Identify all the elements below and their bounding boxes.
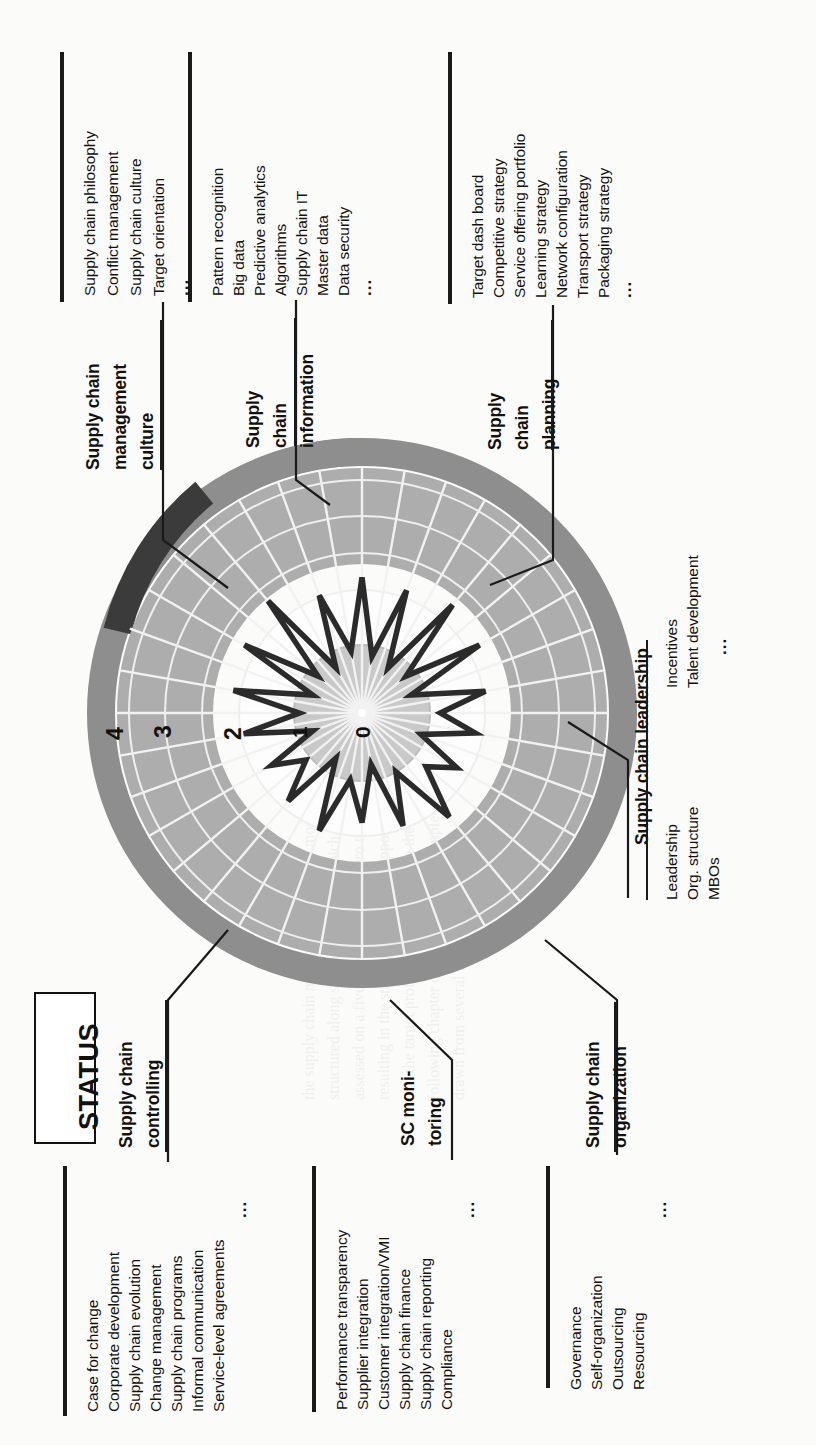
radial-tick-3: 3 [152, 725, 175, 738]
item-information-1: Big data [231, 240, 247, 296]
item-controlling-6: Service-level agreements [211, 1240, 227, 1412]
item-organization-ellipsis: ... [652, 1201, 669, 1218]
item-leadership-3: Incentives [664, 619, 680, 688]
item-information-2: Predictive analytics [252, 165, 268, 296]
item-leadership-4: Talent development [685, 555, 701, 688]
item-information-0: Pattern recognition [210, 168, 226, 296]
heading-monitoring-l1: SC moni- [400, 1071, 418, 1146]
heading-rule-culture [160, 320, 162, 470]
radial-tick-4: 4 [104, 727, 127, 740]
heading-controlling-l2: controlling [145, 1060, 163, 1148]
item-planning-0: Target dash board [470, 175, 486, 298]
group-underline-planning [448, 52, 452, 304]
heading-organization-l1: Supply chain [585, 1041, 603, 1148]
item-information-4: Supply chain IT [294, 191, 310, 296]
radial-tick-2: 2 [222, 727, 245, 740]
item-information-3: Algorithms [273, 224, 289, 296]
item-monitoring-1: Supplier integration [355, 1278, 371, 1410]
radar-svg [82, 418, 642, 1008]
group-underline-organization [546, 1166, 550, 1388]
item-controlling-ellipsis: ... [232, 1201, 249, 1218]
heading-planning-l2: chain [514, 405, 532, 450]
heading-leadership: Supply chain leadership [634, 648, 652, 845]
heading-culture-l2: management [112, 364, 130, 470]
maturity-radar-chart: 0 1 2 3 4 [82, 418, 642, 1008]
heading-culture-l3: culture [139, 413, 157, 470]
heading-rule-organization [614, 1002, 616, 1152]
status-legend-box: STATUS [34, 992, 96, 1144]
item-controlling-1: Corporate development [106, 1252, 122, 1412]
item-planning-3: Learning strategy [533, 180, 549, 298]
radial-tick-0: 0 [352, 726, 373, 738]
item-monitoring-3: Supply chain finance [397, 1269, 413, 1410]
item-organization-1: Self-organization [589, 1275, 605, 1390]
heading-controlling-l1: Supply chain [118, 1041, 136, 1148]
status-label: STATUS [76, 1023, 103, 1130]
item-controlling-5: Informal communication [190, 1250, 206, 1412]
item-culture-2: Supply chain culture [128, 158, 144, 296]
item-leadership-1: Org. structure [685, 807, 701, 900]
item-organization-0: Governance [568, 1307, 584, 1390]
item-monitoring-5: Compliance [439, 1329, 455, 1410]
heading-rule-planning [551, 320, 553, 450]
item-culture-1: Conflict management [105, 151, 121, 296]
item-leadership-0: Leadership [664, 824, 680, 900]
item-culture-0: Supply chain philosophy [82, 131, 98, 296]
item-monitoring-2: Customer integration/VMI [376, 1237, 392, 1410]
item-planning-5: Transport strategy [575, 175, 591, 298]
item-controlling-3: Change management [148, 1265, 164, 1412]
item-information-ellipsis: ... [357, 279, 374, 296]
item-controlling-0: Case for change [85, 1300, 101, 1412]
item-controlling-2: Supply chain evolution [127, 1259, 143, 1412]
item-planning-ellipsis: ... [617, 281, 634, 298]
group-underline-monitoring [312, 1166, 316, 1412]
item-leadership-ellipsis: ... [712, 638, 729, 655]
heading-information-l1: Supply [245, 391, 263, 448]
item-monitoring-4: Supply chain reporting [418, 1258, 434, 1410]
radar-center [358, 709, 366, 717]
heading-planning-l3: planning [541, 379, 559, 450]
item-planning-6: Packaging strategy [596, 168, 612, 298]
heading-rule-controlling [165, 1000, 167, 1152]
group-underline-controlling [63, 1166, 67, 1416]
item-planning-2: Service offering portfolio [512, 134, 528, 298]
heading-information-l3: information [299, 354, 317, 448]
item-organization-3: Resourcing [631, 1313, 647, 1390]
item-organization-2: Outsourcing [610, 1308, 626, 1390]
group-underline-information [188, 52, 192, 302]
item-monitoring-0: Performance transparency [334, 1230, 350, 1410]
item-monitoring-ellipsis: ... [460, 1201, 477, 1218]
group-underline-culture [60, 52, 64, 302]
item-information-5: Master data [315, 215, 331, 296]
radial-tick-1: 1 [289, 726, 310, 738]
item-planning-1: Competitive strategy [491, 159, 507, 298]
heading-planning-l1: Supply [487, 393, 505, 450]
heading-culture-l1: Supply chain [85, 363, 103, 470]
heading-rule-information [294, 318, 296, 446]
item-controlling-4: Supply chain programs [169, 1256, 185, 1412]
heading-rule-leadership [646, 640, 648, 900]
heading-information-l2: chain [272, 403, 290, 448]
heading-monitoring-l2: toring [427, 1098, 445, 1146]
item-leadership-2: MBOs [706, 857, 722, 900]
item-culture-3: Target orientation [151, 178, 167, 296]
item-information-6: Data security [336, 207, 352, 296]
item-planning-4: Network configuration [554, 150, 570, 298]
